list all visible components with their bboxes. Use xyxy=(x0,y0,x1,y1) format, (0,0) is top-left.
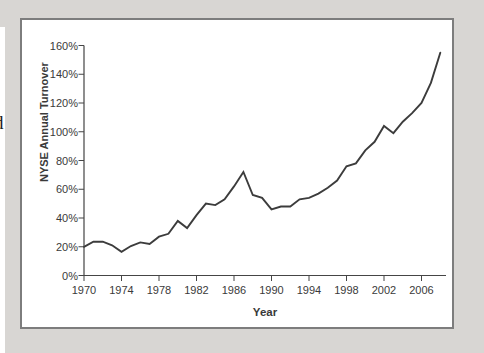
y-tick-label: 80% xyxy=(56,155,78,167)
x-tick-label: 1970 xyxy=(72,284,96,296)
axes xyxy=(84,46,446,276)
x-tick-label: 1994 xyxy=(297,284,321,296)
y-tick-label: 100% xyxy=(50,126,78,138)
x-tick-label: 1974 xyxy=(109,284,133,296)
y-tick-label: 20% xyxy=(56,241,78,253)
turnover-line-chart: 0%20%40%60%80%100%120%140%160%1970197419… xyxy=(22,20,452,327)
x-tick-label: 2006 xyxy=(409,284,433,296)
x-tick-label: 1982 xyxy=(184,284,208,296)
y-tick-label: 0% xyxy=(62,270,78,282)
turnover-series-line xyxy=(84,53,440,252)
y-tick-label: 160% xyxy=(50,40,78,52)
cropped-page-text: d xyxy=(0,112,4,134)
x-tick-label: 2002 xyxy=(372,284,396,296)
y-tick-label: 40% xyxy=(56,212,78,224)
chart-frame: 0%20%40%60%80%100%120%140%160%1970197419… xyxy=(20,18,454,329)
x-tick-label: 1978 xyxy=(147,284,171,296)
y-tick-label: 140% xyxy=(50,68,78,80)
y-tick-label: 60% xyxy=(56,183,78,195)
x-tick-label: 1998 xyxy=(334,284,358,296)
x-axis-title: Year xyxy=(155,306,375,318)
book-page: d 0%20%40%60%80%100%120%140%160%19701974… xyxy=(0,0,484,353)
x-tick-label: 1990 xyxy=(259,284,283,296)
y-tick-label: 120% xyxy=(50,97,78,109)
x-tick-label: 1986 xyxy=(222,284,246,296)
